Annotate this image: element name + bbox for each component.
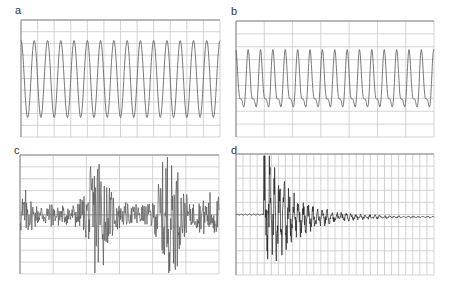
grid bbox=[236, 21, 434, 137]
chart-a-plot bbox=[0, 0, 225, 140]
chart-b-plot bbox=[225, 0, 451, 140]
panel-c: c bbox=[0, 140, 225, 289]
chart-d-plot bbox=[225, 140, 451, 289]
chart-c-plot bbox=[0, 140, 225, 289]
panel-d: d bbox=[225, 140, 451, 289]
panel-a: a bbox=[0, 0, 225, 140]
panel-b: b bbox=[225, 0, 451, 140]
